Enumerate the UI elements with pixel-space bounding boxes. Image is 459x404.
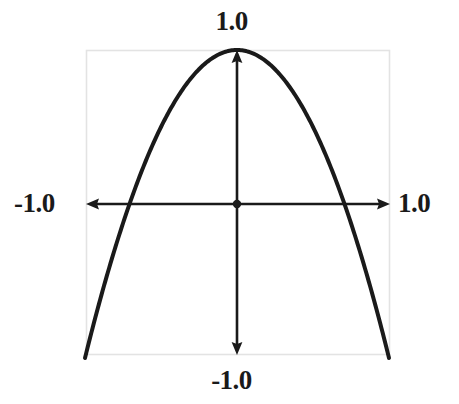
origin-dot: [233, 200, 241, 208]
parabola-figure: 1.0 -1.0 -1.0 1.0: [0, 0, 459, 404]
axis-label-bottom: -1.0: [2, 367, 459, 394]
plot-canvas: [0, 0, 459, 404]
axis-label-top: 1.0: [2, 8, 459, 35]
axis-label-right: 1.0: [398, 190, 430, 217]
axis-label-left: -1.0: [14, 190, 55, 217]
